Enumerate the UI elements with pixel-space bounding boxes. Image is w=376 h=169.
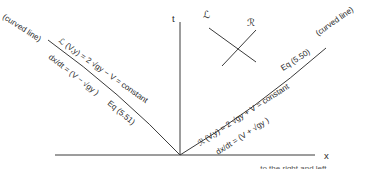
left-characteristic-line <box>48 40 180 155</box>
left-curved-note: (curved line) <box>1 12 43 44</box>
inset-right-line <box>222 30 256 66</box>
t-axis-label: t <box>172 13 175 24</box>
inset-right-label: ℛ <box>247 17 255 28</box>
caption-partial: … to the right and left <box>250 164 327 169</box>
right-slope: dx/dt = (V + √gy ) <box>214 116 271 157</box>
left-equation-ref: Eq (5.51) <box>106 99 137 127</box>
inset-left-label: ℒ <box>203 9 210 20</box>
x-axis-label: x <box>324 150 329 161</box>
right-equation-ref: Eq (5.50) <box>279 47 312 73</box>
right-curved-note: (curved line) <box>314 5 355 38</box>
characteristics-diagram: t x (curved line) ℒ (V,y) = 2 √gy − V = … <box>0 0 376 169</box>
inset-left-line <box>209 28 256 62</box>
